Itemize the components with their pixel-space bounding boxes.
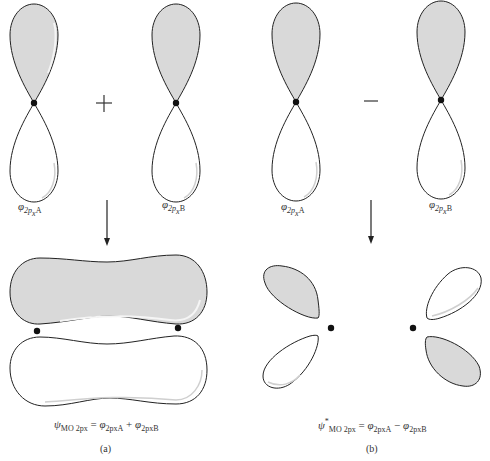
label-phi-2px-b-right: φ2pxB bbox=[429, 198, 452, 216]
orbital-2px-a-right bbox=[272, 3, 320, 201]
bonding-mo-upper-lobe bbox=[10, 255, 207, 324]
orbital-2px-b-left bbox=[152, 4, 200, 202]
nucleus-a-antibonding bbox=[328, 325, 334, 331]
label-phi-2px-a-right: φ2pxA bbox=[281, 200, 304, 218]
equation-antibonding-mo: ψ*MO 2px = φ2pxA − φ2pxB bbox=[318, 417, 426, 434]
label-phi-2px-b-left: φ2pxB bbox=[162, 198, 185, 216]
orbital-2px-b-right bbox=[417, 1, 465, 199]
antibonding-lobe-a-lower bbox=[263, 335, 318, 388]
bonding-mo-lower-lobe bbox=[10, 336, 207, 406]
equation-bonding-mo: ψMO 2px = φ2pxA + φ2pxB bbox=[54, 418, 158, 433]
orbital-2px-a-left bbox=[10, 4, 58, 202]
plus-operator bbox=[96, 95, 112, 112]
nucleus-a bbox=[34, 328, 40, 334]
antibonding-lobe-b-upper bbox=[426, 268, 481, 320]
label-phi-2px-a-left: φ2pxA bbox=[18, 200, 41, 218]
antibonding-lobe-b-lower bbox=[425, 337, 480, 387]
arrow-down-icon-b bbox=[368, 200, 374, 244]
antibonding-lobe-a-upper bbox=[264, 266, 319, 319]
nucleus-b-antibonding bbox=[410, 325, 416, 331]
molecular-orbital-diagram bbox=[0, 0, 490, 461]
caption-a: (a) bbox=[100, 443, 111, 454]
arrow-down-icon-a bbox=[104, 200, 110, 246]
nucleus-b bbox=[175, 325, 181, 331]
caption-b: (b) bbox=[366, 443, 378, 454]
